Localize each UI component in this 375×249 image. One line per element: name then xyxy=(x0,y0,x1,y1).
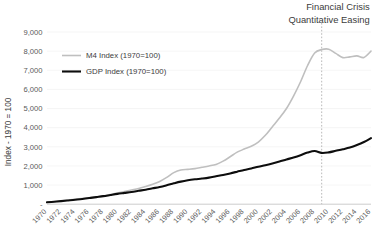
annotation-text-line: Financial Crisis xyxy=(306,1,370,12)
annotation-text-line: Quantitative Easing xyxy=(288,14,369,25)
y-axis-tick-labels: -1,0002,0003,0004,0005,0006,0007,0008,00… xyxy=(23,28,42,209)
x-axis-tick-label: 2016 xyxy=(354,207,372,225)
line-chart: -1,0002,0003,0004,0005,0006,0007,0008,00… xyxy=(0,0,375,249)
y-axis-tick-label: 8,000 xyxy=(23,47,42,56)
y-axis-tick-label: 9,000 xyxy=(23,28,42,37)
y-axis-tick-label: 6,000 xyxy=(23,85,42,94)
x-axis-tick-label: 1998 xyxy=(228,207,246,225)
x-axis-tick-label: 1990 xyxy=(171,207,189,225)
x-axis-tick-label: 2008 xyxy=(298,207,316,225)
y-axis-tick-label: 4,000 xyxy=(23,123,42,132)
y-axis-tick-label: 3,000 xyxy=(23,143,42,152)
x-axis-tick-label: 1972 xyxy=(45,207,63,225)
x-axis-tick-label: 2012 xyxy=(326,207,344,225)
chart-container: -1,0002,0003,0004,0005,0006,0007,0008,00… xyxy=(0,0,375,249)
x-axis-tick-label: 2004 xyxy=(270,207,288,225)
legend-label-m4-index: M4 Index (1970=100) xyxy=(86,51,161,60)
x-axis-tick-label: 1982 xyxy=(115,207,133,225)
x-axis-tick-label: 1978 xyxy=(87,207,105,225)
x-axis-tick-label: 1996 xyxy=(214,207,232,225)
x-axis-tick-label: 1988 xyxy=(157,207,175,225)
legend: M4 Index (1970=100)GDP Index (1970=100) xyxy=(62,51,167,76)
x-axis-tick-label: 2000 xyxy=(242,207,260,225)
x-axis-tick-label: 1994 xyxy=(199,207,217,225)
x-axis-tick-labels: 1970197219741976197819801982198419861988… xyxy=(30,207,372,225)
x-axis-tick-label: 2002 xyxy=(256,207,274,225)
x-axis-tick-label: 1974 xyxy=(59,207,77,225)
annotation-text-group: Financial CrisisQuantitative Easing xyxy=(288,1,370,25)
x-axis-tick-label: 1976 xyxy=(73,207,91,225)
y-axis-tick-label: 2,000 xyxy=(23,162,42,171)
y-axis-tick-label: 7,000 xyxy=(23,66,42,75)
x-axis-tick-label: 1984 xyxy=(129,207,147,225)
series-line-gdp-index xyxy=(47,138,371,202)
x-axis-tick-label: 1992 xyxy=(185,207,203,225)
x-axis-tick-label: 2014 xyxy=(340,207,358,225)
x-axis-tick-label: 2006 xyxy=(284,207,302,225)
x-axis-tick-label: 1980 xyxy=(101,207,119,225)
y-axis-tick-label: 1,000 xyxy=(23,181,42,190)
legend-label-gdp-index: GDP Index (1970=100) xyxy=(86,67,167,76)
x-axis-tick-label: 1986 xyxy=(143,207,161,225)
x-axis-tick-label: 1970 xyxy=(30,207,48,225)
y-axis-tick-label: 5,000 xyxy=(23,104,42,113)
y-axis-title: Index - 1970 = 100 xyxy=(4,97,13,166)
x-axis-tick-label: 2010 xyxy=(312,207,330,225)
